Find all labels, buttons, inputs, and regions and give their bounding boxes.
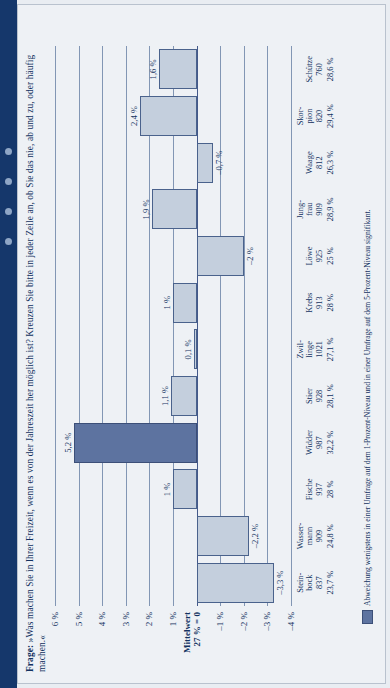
bar-value-label: 1,1 % [159, 386, 169, 406]
question-label: Frage: [25, 645, 35, 672]
bar-value-label: 1 % [162, 483, 172, 497]
category-label: Schütze [295, 46, 315, 93]
grid-line [291, 46, 292, 606]
grid-line [78, 46, 79, 606]
sidebar-dot [5, 148, 12, 155]
category-count: 1021 [315, 326, 325, 373]
category-label: Skor- pion [295, 93, 315, 140]
chart-bar [196, 516, 248, 556]
chart-bar [158, 49, 196, 89]
grid-line [102, 46, 103, 606]
category-share: 28 % [325, 279, 335, 326]
table-column: Zwil- linge102127,1 % [295, 326, 335, 373]
category-count: 909 [315, 513, 325, 560]
table-column: Stein- bock83723,7 % [295, 559, 335, 606]
table-column: Waage81226,3 % [295, 139, 335, 186]
category-count: 760 [315, 46, 325, 93]
category-count: 909 [315, 186, 325, 233]
bar-value-label: 0,1 % [183, 339, 193, 359]
bar-value-label: 5,2 % [62, 433, 72, 453]
y-axis-tick-label: –4 % [286, 606, 296, 631]
grid-line [55, 46, 56, 606]
category-label: Waage [295, 139, 315, 186]
question-text: »Was machen Sie in Ihrer Freizeit, wenn … [25, 55, 47, 672]
category-share: 32,2 % [325, 419, 335, 466]
bar-chart-plot: 6 %5 %4 %3 %2 %1 %Mittelwert27 % = 0–1 %… [55, 46, 291, 606]
question-block: Frage: »Was machen Sie in Ihrer Freizeit… [25, 32, 48, 672]
baseline-label-line1: Mittelwert [181, 612, 191, 653]
table-column: Wasser- mann90924,8 % [295, 513, 335, 560]
baseline-label-line2: 27 % = 0 [191, 612, 201, 646]
category-share: 28 % [325, 466, 335, 513]
bar-value-label: 1,9 % [140, 199, 150, 219]
category-share: 25 % [325, 233, 335, 280]
y-axis-tick-label: Mittelwert27 % = 0 [181, 606, 201, 653]
chart-bar [73, 423, 196, 463]
y-axis-tick-label: 2 % [144, 606, 154, 626]
category-label: Stein- bock [295, 559, 315, 606]
category-count: 937 [315, 466, 325, 513]
y-axis-tick-label: 1 % [168, 606, 178, 626]
category-label: Zwil- linge [295, 326, 315, 373]
table-column: Skor- pion82029,4 % [295, 93, 335, 140]
footnote-text: Abweichung wenigstens in einer Umfrage a… [363, 6, 372, 606]
category-share: 28,9 % [325, 186, 335, 233]
decorative-sidebar [0, 0, 17, 688]
chart-bar [139, 96, 196, 136]
grid-line [125, 46, 126, 606]
category-share: 28,1 % [325, 373, 335, 420]
category-share: 28,6 % [325, 46, 335, 93]
category-share: 26,3 % [325, 139, 335, 186]
bar-value-label: –2 % [244, 247, 254, 265]
rotated-figure-stage: Frage: »Was machen Sie in Ihrer Freizeit… [19, 8, 385, 680]
page-root: Frage: »Was machen Sie in Ihrer Freizeit… [0, 0, 390, 688]
table-column: Löwe92525 % [295, 233, 335, 280]
chart-bar [170, 376, 196, 416]
category-label: Jung- frau [295, 186, 315, 233]
category-count: 837 [315, 559, 325, 606]
y-axis-tick-label: 6 % [50, 606, 60, 626]
y-axis-tick-label: –1 % [215, 606, 225, 631]
table-column: Fische93728 % [295, 466, 335, 513]
category-label: Fische [295, 466, 315, 513]
sidebar-dot [5, 208, 12, 215]
sidebar-dot [5, 238, 12, 245]
chart-bar [196, 236, 243, 276]
y-axis-tick-label: 4 % [97, 606, 107, 626]
table-column: Jung- frau90928,9 % [295, 186, 335, 233]
category-label: Widder [295, 419, 315, 466]
category-share: 29,4 % [325, 93, 335, 140]
y-axis-tick-label: –3 % [262, 606, 272, 631]
legend-swatch-significant [362, 610, 373, 624]
category-count: 928 [315, 373, 325, 420]
bar-value-label: –0,7 % [214, 150, 224, 174]
category-share: 24,8 % [325, 513, 335, 560]
category-data-table: Stein- bock83723,7 %Wasser- mann90924,8 … [295, 46, 355, 606]
category-share: 27,1 % [325, 326, 335, 373]
table-column: Schütze76028,6 % [295, 46, 335, 93]
bar-value-label: 1 % [162, 296, 172, 310]
category-count: 820 [315, 93, 325, 140]
y-axis-tick-label: 3 % [120, 606, 130, 626]
y-axis-tick-label: –2 % [238, 606, 248, 631]
grid-line [267, 46, 268, 606]
sidebar-dot [5, 178, 12, 185]
category-count: 987 [315, 419, 325, 466]
chart-bar [173, 283, 197, 323]
table-column: Stier92828,1 % [295, 373, 335, 420]
table-column: Widder98732,2 % [295, 419, 335, 466]
category-share: 23,7 % [325, 559, 335, 606]
chart-bar [151, 189, 196, 229]
y-axis-tick-label: 5 % [73, 606, 83, 626]
table-column: Krebs91328 % [295, 279, 335, 326]
category-label: Löwe [295, 233, 315, 280]
category-count: 812 [315, 139, 325, 186]
chart-bar [196, 143, 213, 183]
category-count: 913 [315, 279, 325, 326]
chart-bar [173, 469, 197, 509]
bar-value-label: –2,2 % [249, 524, 259, 548]
figure-panel: Frage: »Was machen Sie in Ihrer Freizeit… [17, 4, 386, 684]
category-label: Wasser- mann [295, 513, 315, 560]
chart-bar [196, 563, 274, 603]
chart-bar [194, 329, 196, 369]
